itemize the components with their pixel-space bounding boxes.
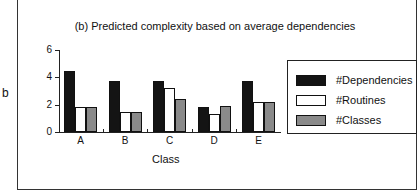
- y-tick: [55, 77, 59, 78]
- y-tick: [55, 50, 59, 51]
- bar-C-0: [153, 81, 164, 132]
- x-tick: [103, 129, 104, 133]
- chart-title: (b) Predicted complexity based on averag…: [0, 20, 420, 32]
- bar-E-2: [264, 102, 275, 132]
- bar-D-0: [198, 107, 209, 132]
- legend-label: #Dependencies: [336, 74, 412, 86]
- y-tick-label: 6: [42, 44, 52, 55]
- legend-label: #Routines: [336, 94, 386, 106]
- x-tick-label: A: [71, 135, 91, 146]
- x-tick-label: B: [115, 135, 135, 146]
- bar-A-0: [64, 71, 75, 133]
- bar-D-2: [220, 106, 231, 132]
- y-tick-label: 4: [42, 71, 52, 82]
- legend-swatch: [296, 115, 326, 126]
- bar-D-1: [209, 114, 220, 132]
- bar-B-1: [120, 112, 131, 133]
- y-axis: [59, 50, 60, 132]
- legend-label: #Classes: [336, 114, 381, 126]
- bar-B-2: [131, 112, 142, 133]
- legend-swatch: [296, 75, 326, 86]
- bar-A-2: [86, 107, 97, 132]
- x-tick-label: C: [160, 135, 180, 146]
- x-tick: [192, 129, 193, 133]
- x-axis-title: Class: [152, 153, 180, 165]
- bar-E-0: [242, 81, 253, 132]
- legend-swatch: [296, 95, 326, 106]
- y-tick: [55, 132, 59, 133]
- bar-A-1: [75, 107, 86, 132]
- x-tick: [147, 129, 148, 133]
- panel-side-label: b: [2, 86, 9, 100]
- x-tick: [236, 129, 237, 133]
- legend: #Dependencies #Routines #Classes: [287, 60, 417, 134]
- bar-E-1: [253, 102, 264, 132]
- y-tick-label: 0: [42, 126, 52, 137]
- x-axis: [59, 132, 281, 133]
- bar-C-1: [164, 88, 175, 132]
- bar-C-2: [175, 99, 186, 132]
- y-tick-label: 2: [42, 99, 52, 110]
- x-tick-label: E: [249, 135, 269, 146]
- y-tick: [55, 105, 59, 106]
- x-tick-label: D: [204, 135, 224, 146]
- bar-B-0: [109, 81, 120, 132]
